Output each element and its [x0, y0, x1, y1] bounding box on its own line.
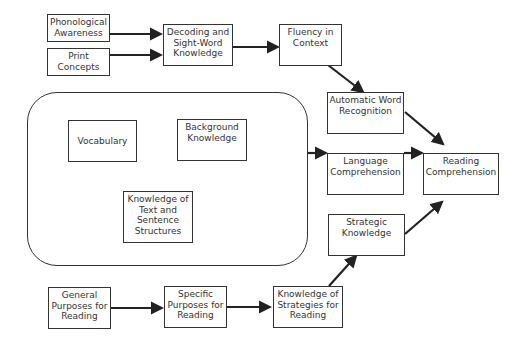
node-label: Decoding and Sight-Word Knowledge: [164, 27, 232, 59]
node-label: Language Comprehension: [328, 156, 403, 177]
arrow-strategies-strategic: [329, 256, 356, 286]
node-label: Fluency in Context: [280, 27, 341, 48]
node-phonological-awareness: Phonological Awareness: [47, 14, 110, 42]
node-label: General Purposes for Reading: [49, 290, 110, 322]
node-background-knowledge: Background Knowledge: [177, 119, 247, 161]
node-label: Background Knowledge: [178, 122, 246, 143]
node-vocabulary: Vocabulary: [68, 120, 137, 162]
node-strategic-knowledge: Strategic Knowledge: [328, 214, 405, 256]
node-language-comprehension: Language Comprehension: [327, 153, 404, 195]
node-specific-purposes: Specific Purposes for Reading: [164, 286, 227, 328]
node-automatic-word-recognition: Automatic Word Recognition: [327, 92, 404, 134]
node-general-purposes: General Purposes for Reading: [48, 287, 111, 329]
node-label: Strategic Knowledge: [329, 217, 404, 238]
node-label: Knowledge of Strategies for Reading: [274, 289, 342, 321]
node-decoding: Decoding and Sight-Word Knowledge: [163, 24, 233, 66]
arrow-automatic-reading: [405, 112, 443, 144]
node-reading-comprehension: Reading Comprehension: [423, 153, 499, 195]
node-print-concepts: Print Concepts: [47, 48, 110, 76]
node-text-structures: Knowledge of Text and Sentence Structure…: [123, 191, 193, 243]
node-label: Automatic Word Recognition: [328, 95, 403, 116]
node-label: Knowledge of Text and Sentence Structure…: [124, 194, 192, 236]
node-label: Vocabulary: [78, 136, 128, 147]
arrow-strategic-reading: [405, 202, 442, 234]
node-label: Reading Comprehension: [424, 156, 498, 177]
node-strategies-knowledge: Knowledge of Strategies for Reading: [273, 286, 343, 328]
node-fluency: Fluency in Context: [279, 24, 342, 66]
node-label: Phonological Awareness: [48, 17, 109, 38]
node-label: Specific Purposes for Reading: [165, 289, 226, 321]
node-label: Print Concepts: [48, 51, 109, 72]
arrow-fluency-automatic: [328, 65, 363, 92]
